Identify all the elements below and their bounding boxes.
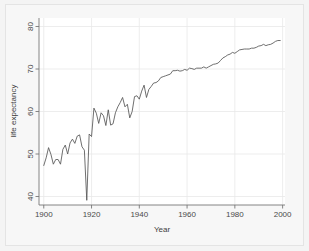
y-tick-label: 50 [26,149,35,158]
x-tick-label: 1980 [226,210,244,219]
y-tick-label: 60 [26,107,35,116]
y-tick-label: 40 [26,192,35,201]
x-tick-label: 2000 [274,210,292,219]
chart-screenshot: 4050607080 190019201940196019802000 Year… [0,0,309,251]
life-expectancy-line-chart: 4050607080 190019201940196019802000 Year… [0,0,309,251]
y-axis-title: life expectancy [9,85,18,138]
x-axis-ticks: 190019201940196019802000 [35,205,292,219]
y-axis-ticks: 4050607080 [26,22,40,201]
x-tick-label: 1940 [130,210,148,219]
graph-region: 4050607080 190019201940196019802000 Year… [0,0,309,251]
y-tick-label: 80 [26,22,35,31]
x-axis-title: Year [154,225,171,234]
x-tick-label: 1920 [83,210,101,219]
y-tick-label: 70 [26,64,35,73]
x-tick-label: 1900 [35,210,53,219]
x-tick-label: 1960 [178,210,196,219]
